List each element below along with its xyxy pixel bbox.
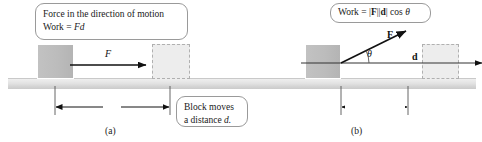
panel-a-vectors — [0, 0, 241, 142]
distance-label-backdrop-a — [103, 99, 121, 114]
projection-label-backdrop-b — [345, 99, 405, 114]
panel-b-vectors — [241, 0, 482, 142]
force-arrow-b — [341, 31, 406, 63]
work-force-displacement-figure: Force in the direction of motion Work = … — [0, 0, 482, 142]
panel-a: Force in the direction of motion Work = … — [0, 0, 241, 142]
angle-arc-b — [366, 51, 369, 64]
panel-b: Work = |F||d| cos θ F d θ |F| cos θ (b) — [241, 0, 482, 142]
